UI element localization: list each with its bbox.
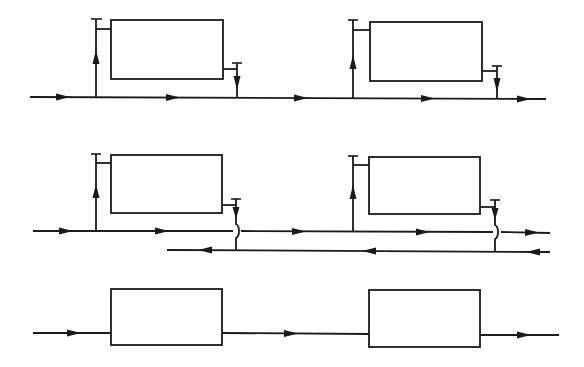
- radiator: [370, 22, 482, 81]
- flow-arrow-up-icon: [350, 55, 357, 69]
- flow-arrow-icon: [284, 330, 298, 337]
- flow-arrow-icon: [155, 228, 169, 235]
- flow-arrow-left-icon: [526, 249, 540, 256]
- row-series-loop-system: [33, 289, 559, 347]
- flow-arrow-down-icon: [233, 207, 240, 219]
- heating-piping-diagram: [0, 0, 584, 367]
- flow-arrow-left-icon: [198, 247, 212, 254]
- supply-pipe: [241, 231, 493, 232]
- main-pipe: [30, 97, 546, 99]
- flow-arrow-icon: [416, 229, 430, 236]
- flow-arrow-icon: [525, 229, 539, 236]
- radiator: [111, 155, 222, 213]
- flow-arrow-icon: [292, 228, 306, 235]
- flow-arrow-down-icon: [494, 78, 501, 92]
- flow-arrow-up-icon: [350, 185, 357, 199]
- return-drop-crossover: [236, 199, 239, 250]
- flow-arrow-icon: [166, 94, 180, 101]
- flow-arrow-icon: [59, 228, 73, 235]
- row-single-pipe-system: [30, 19, 546, 103]
- flow-arrow-icon: [421, 95, 435, 102]
- return-pipe: [167, 250, 550, 252]
- return-drop-crossover: [495, 200, 498, 251]
- flow-arrow-icon: [517, 96, 531, 103]
- radiator: [111, 289, 222, 345]
- radiator: [369, 157, 480, 214]
- radiator: [369, 290, 480, 347]
- flow-arrow-icon: [517, 332, 531, 339]
- flow-arrow-down-icon: [492, 208, 499, 220]
- flow-arrow-icon: [294, 95, 308, 102]
- flow-arrow-up-icon: [93, 50, 100, 64]
- row-two-pipe-system: [33, 154, 550, 256]
- flow-arrow-icon: [67, 330, 81, 337]
- flow-arrow-left-icon: [362, 248, 376, 255]
- flow-arrow-down-icon: [234, 76, 241, 90]
- flow-arrow-up-icon: [93, 184, 100, 198]
- flow-arrow-icon: [56, 94, 70, 101]
- radiator: [111, 20, 223, 79]
